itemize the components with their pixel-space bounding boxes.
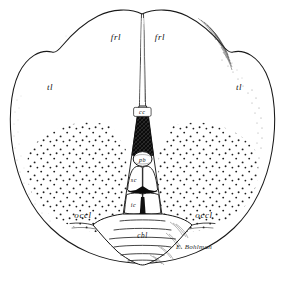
label-corpus-callosum: cc: [139, 108, 146, 115]
label-occipital-left: occl: [74, 210, 91, 220]
brain-diagram: cc pb sc ic: [0, 0, 285, 283]
corpus-callosum-region: cc: [132, 107, 154, 156]
label-inferior-colliculus: ic: [131, 201, 137, 208]
label-frontal-right: frl: [155, 32, 165, 42]
label-cerebellum: cbl: [137, 232, 148, 240]
brain-figure: cc pb sc ic: [0, 0, 285, 283]
pineal-body-region: pb: [133, 152, 152, 167]
artist-signature: E. Bohlman: [175, 243, 212, 251]
label-occipital-right: occl: [195, 210, 212, 220]
label-frontal-left: frl: [111, 32, 121, 42]
label-temporal-left: tl: [47, 82, 53, 92]
label-pineal-body: pb: [138, 156, 146, 163]
label-superior-colliculus: sc: [131, 176, 137, 183]
label-temporal-right: tl: [236, 82, 242, 92]
